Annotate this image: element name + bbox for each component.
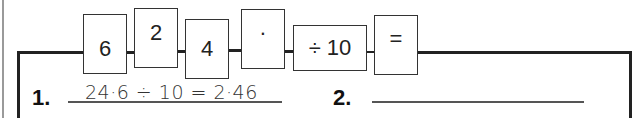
flow-line-seg: [126, 51, 134, 54]
flow-line-seg: [284, 50, 293, 53]
answer-line-1: [68, 101, 282, 103]
question-1-answer: 24·6 ÷ 10 = 2·46: [85, 81, 258, 103]
decimal-point-box: ·: [241, 9, 285, 69]
equals-box: =: [374, 15, 418, 75]
flow-line-left: [18, 51, 83, 54]
flow-line-seg: [177, 50, 185, 53]
digit-box-6: 6: [83, 14, 127, 74]
answer-line-2: [372, 101, 584, 103]
question-2-number: 2.: [333, 85, 351, 111]
flow-line-seg: [228, 49, 241, 52]
digit-box-4: 4: [185, 19, 229, 79]
digit-box-2: 2: [134, 8, 178, 68]
page-edge: [2, 0, 4, 118]
divide-by-10-box: ÷ 10: [293, 25, 367, 71]
flow-line-right: [417, 51, 631, 54]
question-1-number: 1.: [32, 85, 50, 111]
flow-bracket-right: [629, 51, 632, 118]
flow-line-seg: [366, 51, 374, 53]
flow-bracket-left: [17, 51, 20, 118]
